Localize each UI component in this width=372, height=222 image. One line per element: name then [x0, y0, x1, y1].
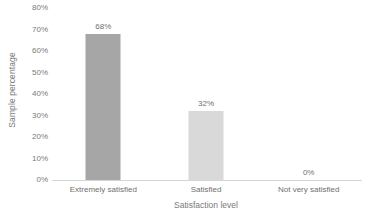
bar[interactable] [188, 111, 223, 180]
bar-value-label: 68% [95, 22, 111, 31]
x-axis-category-label: Not very satisfied [257, 184, 360, 195]
bar-chart: Sample percentage 0%10%20%30%40%50%60%70… [0, 0, 372, 222]
x-axis-line [52, 180, 362, 181]
y-axis-tick-label: 0% [22, 176, 48, 184]
y-axis-tick-labels: 0%10%20%30%40%50%60%70%80% [22, 0, 48, 182]
bar-value-label: 32% [198, 99, 214, 108]
bar-slot: 32% [155, 8, 258, 180]
y-axis-tick-label: 80% [22, 4, 48, 12]
y-axis-tick-label: 60% [22, 47, 48, 55]
bar-slot: 0% [257, 8, 360, 180]
bar-value-label: 0% [303, 168, 315, 177]
y-axis-tick-label: 40% [22, 90, 48, 98]
y-axis-tick-label: 10% [22, 155, 48, 163]
y-axis-title: Sample percentage [2, 0, 22, 180]
y-axis-tick-label: 70% [22, 26, 48, 34]
y-axis-tick-label: 50% [22, 69, 48, 77]
bar[interactable] [86, 34, 121, 180]
x-axis-category-label: Satisfied [155, 184, 258, 195]
x-axis-category-label: Extremely satisfied [52, 184, 155, 195]
y-axis-tick-label: 30% [22, 112, 48, 120]
y-axis-tick-label: 20% [22, 133, 48, 141]
bar-slot: 68% [52, 8, 155, 180]
x-axis-category-labels: Extremely satisfiedSatisfiedNot very sat… [52, 184, 360, 198]
x-axis-title: Satisfaction level [52, 200, 360, 211]
y-axis-title-text: Sample percentage [7, 52, 17, 127]
plot-area: 68%32%0% [52, 8, 360, 180]
